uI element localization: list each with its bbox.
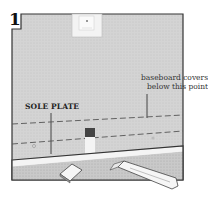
baseboard-label: baseboard covers below this point	[138, 74, 208, 91]
wall-illustration	[0, 0, 208, 199]
illustration: 1 baseboard covers below this point SOLE…	[0, 0, 208, 199]
outlet-icon	[72, 14, 102, 37]
sole-plate-label: SOLE PLATE	[25, 102, 79, 111]
baseboard-label-line2: below this point	[138, 83, 208, 92]
wall-opening	[85, 128, 95, 137]
step-number: 1	[9, 11, 21, 28]
